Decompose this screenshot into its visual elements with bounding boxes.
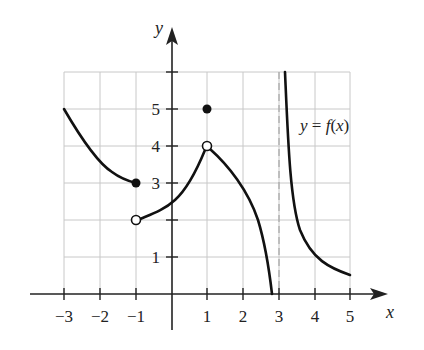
y-tick-label: 4	[152, 137, 161, 156]
y-axis-label: y	[153, 18, 163, 38]
x-tick-label: −3	[55, 307, 73, 326]
function-label: y = f(x)	[298, 116, 349, 135]
x-axis-label: x	[385, 302, 394, 322]
closed-point-neg1-3	[132, 179, 141, 188]
open-point-1-4	[203, 142, 212, 151]
closed-point-1-5	[203, 105, 212, 114]
x-tick-label: 2	[239, 307, 248, 326]
x-tick-label: 5	[346, 307, 355, 326]
function-graph: −3 −2 −1 1 2 3 4 5 1 3 4 5 x y y = f(x)	[0, 0, 424, 350]
x-tick-label: −1	[127, 307, 145, 326]
x-tick-label: 3	[275, 307, 284, 326]
y-tick-label: 5	[152, 100, 161, 119]
open-point-neg1-2	[132, 216, 141, 225]
curve-middle-falling	[210, 149, 272, 294]
x-tick-label: 1	[203, 307, 212, 326]
x-tick-label: −2	[91, 307, 109, 326]
x-tick-label: 4	[311, 307, 320, 326]
y-tick-label: 1	[152, 248, 161, 267]
curve-right-branch	[285, 72, 350, 275]
y-tick-label: 3	[152, 174, 161, 193]
